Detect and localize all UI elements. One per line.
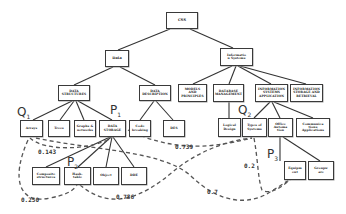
weight-label-0-7: 0.7 bbox=[207, 188, 218, 195]
node-models-principles: MODELS AND PRINCIPLES bbox=[178, 84, 207, 102]
node-data-description: DATA DESCRIPTION bbox=[139, 85, 171, 101]
node-groupware: Groupw are bbox=[308, 161, 334, 180]
weight-label-0-739: 0.739 bbox=[175, 143, 193, 150]
node-dde: DDE bbox=[121, 167, 147, 185]
node-object: Object bbox=[93, 167, 119, 185]
node-data: Data bbox=[105, 50, 129, 67]
node-is-storage-retrieval: INFORMATION STORAGE AND RETRIEVAL bbox=[290, 84, 323, 102]
marker-q2: Q2 bbox=[238, 103, 251, 118]
node-des: DES bbox=[163, 120, 185, 137]
marker-p2: P2 bbox=[67, 155, 78, 170]
taxonomy-diagram: CSS Data Informatio n Systems DATA STRUC… bbox=[0, 0, 346, 214]
node-code-breaking: Code breaking bbox=[129, 120, 151, 137]
node-css: CSS bbox=[166, 12, 198, 29]
marker-p3: P3 bbox=[267, 147, 278, 162]
weight-label-0-786: 0.786 bbox=[116, 193, 134, 200]
weight-label-0-143: 0.143 bbox=[38, 148, 56, 155]
node-graphs-networks: Graphs & networks bbox=[74, 120, 96, 137]
node-information-systems: Informatio n Systems bbox=[220, 48, 253, 66]
node-composite-structures: Composite structures bbox=[32, 167, 60, 185]
node-types-of-systems: Types of Systems bbox=[242, 118, 267, 137]
node-data-structures: DATA STRUCTURES bbox=[58, 85, 90, 101]
weight-label-0-2: 0.2 bbox=[244, 162, 255, 169]
node-equipment: Equipm ent bbox=[284, 161, 306, 180]
node-is-application: INFORMATION SYSTEMS APPLICATION bbox=[255, 84, 288, 102]
marker-q1: Q1 bbox=[17, 105, 30, 120]
node-arrays: Arrays bbox=[20, 120, 43, 137]
node-trees: Trees bbox=[48, 120, 70, 137]
marker-p1: P1 bbox=[110, 103, 121, 118]
weight-label-0-250: 0.250 bbox=[21, 196, 39, 203]
node-database-management: DATABASE MANAGEMENT bbox=[213, 84, 244, 102]
node-logical-design: Logical Design bbox=[218, 118, 241, 137]
node-office-automation: Office Automa tion bbox=[268, 118, 293, 137]
node-data-storage: DATA STORAGE bbox=[99, 120, 126, 137]
node-communications-applications: Communica tions Applications bbox=[296, 118, 330, 137]
